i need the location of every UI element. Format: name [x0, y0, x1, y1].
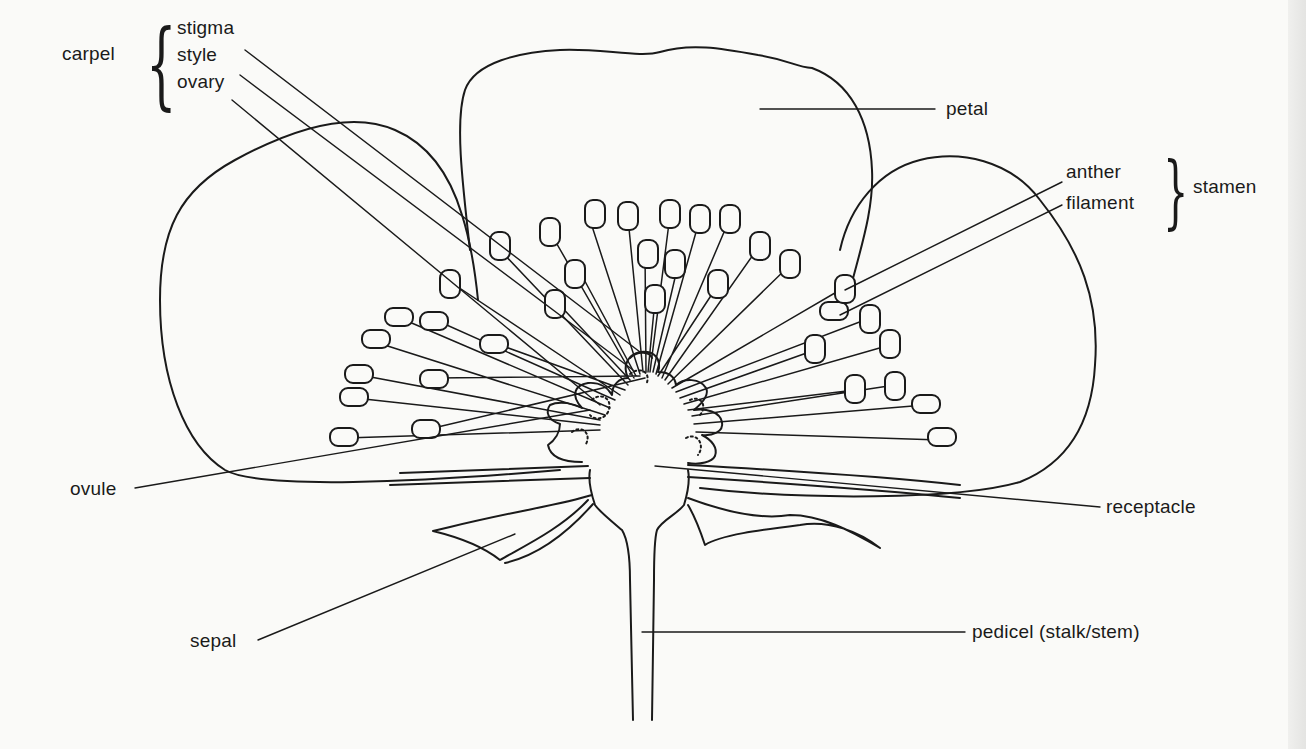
label-stigma: stigma [177, 18, 234, 37]
leader-ovule [135, 410, 590, 488]
right-sepal [688, 498, 880, 548]
carpel-brace: { [146, 16, 177, 112]
label-sepal: sepal [190, 631, 236, 650]
label-receptacle: receptacle [1106, 497, 1196, 516]
leader-sepal [258, 534, 515, 640]
label-petal: petal [946, 99, 988, 118]
label-ovule: ovule [70, 479, 116, 498]
label-style: style [177, 45, 217, 64]
stamens [330, 200, 956, 446]
right-petal [700, 156, 1096, 496]
leader-stigma [245, 50, 640, 352]
label-filament: filament [1066, 193, 1134, 212]
leader-anther [845, 182, 1062, 290]
leader-ovary [232, 100, 600, 405]
label-pedicel: pedicel (stalk/stem) [972, 622, 1140, 641]
leader-filament [840, 205, 1062, 315]
label-anther: anther [1066, 162, 1121, 181]
left-petal [160, 122, 560, 482]
label-stamen: stamen [1193, 177, 1257, 196]
receptacle-outline [589, 470, 689, 720]
stamen-brace: } [1163, 152, 1188, 232]
diagram-canvas: carpel { stigma style ovary petal anther… [0, 0, 1306, 749]
ovary-cluster [548, 352, 723, 464]
label-carpel: carpel [62, 44, 115, 63]
leader-receptacle [655, 466, 1100, 507]
label-ovary: ovary [177, 72, 224, 91]
